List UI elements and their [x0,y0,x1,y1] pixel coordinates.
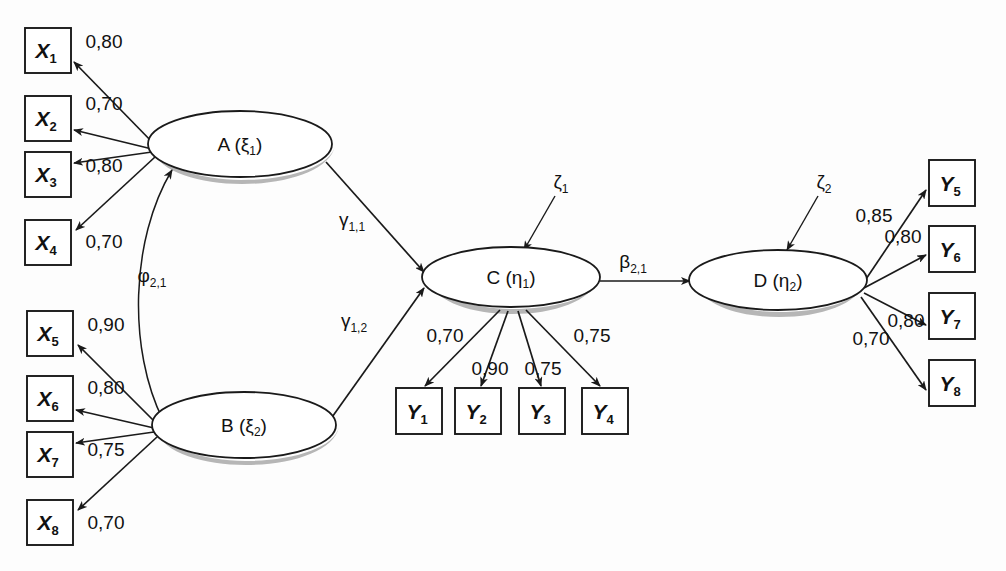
latent-label-a: A (ξ1) [218,134,263,158]
latent-label-b: B (ξ2) [221,415,267,439]
loading-arrows-c [425,310,600,386]
path-d-to-y6 [864,255,926,288]
label-beta-2-1: β2,1 [619,251,647,276]
label-gamma-1-2: γ1,2 [341,310,368,335]
path-zeta-1 [524,196,555,250]
indicator-boxes-left [25,28,73,545]
label-zeta-1: ζ1 [553,171,568,196]
path-zeta-2 [787,196,818,250]
loading-label-x2: 0,70 [86,93,123,114]
loading-arrows-a [74,62,156,230]
sem-path-diagram: X1 X2 X3 X4 X5 X6 X7 X8 Y1 Y2 Y3 Y4 Y5 Y… [0,0,1006,571]
path-phi-covariance [138,170,172,420]
indicator-boxes-right [929,160,975,406]
loading-label-y7: 0,80 [888,310,925,331]
label-gamma-1-1: γ1,1 [339,209,366,234]
loading-label-y3: 0,75 [525,358,562,379]
loading-label-x1: 0,80 [86,31,123,52]
loading-label-y5: 0,85 [856,205,893,226]
label-phi-2-1: φ2,1 [137,265,166,290]
loading-label-x7: 0,75 [88,439,125,460]
loading-label-x6: 0,80 [88,377,125,398]
loading-label-y1: 0,70 [427,325,464,346]
loading-label-x3: 0,80 [86,155,123,176]
loading-label-x5: 0,90 [88,314,125,335]
loading-label-x4: 0,70 [86,231,123,252]
loading-label-x8: 0,70 [88,512,125,533]
loading-label-y2: 0,90 [472,358,509,379]
label-zeta-2: ζ2 [816,171,831,196]
path-a-to-x2 [74,130,152,149]
path-b-to-x6 [76,410,154,428]
loading-label-y8: 0,70 [853,328,890,349]
loading-label-y6: 0,80 [885,226,922,247]
diagram-canvas: X1 X2 X3 X4 X5 X6 X7 X8 Y1 Y2 Y3 Y4 Y5 Y… [0,0,1006,571]
loading-label-y4: 0,75 [574,325,611,346]
